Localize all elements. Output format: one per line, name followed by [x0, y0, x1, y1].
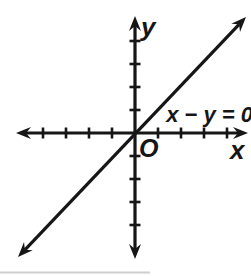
- coordinate-plane-figure: y x O x − y = 0: [0, 0, 251, 276]
- graph-canvas: y x O x − y = 0: [0, 0, 251, 276]
- y-axis-label: y: [139, 12, 157, 42]
- plotted-line-shaft: [25, 24, 239, 250]
- plotted-line: [18, 17, 246, 257]
- origin-label: O: [139, 134, 159, 162]
- x-axis-label: x: [228, 135, 246, 165]
- equation-label: x − y = 0: [165, 102, 251, 127]
